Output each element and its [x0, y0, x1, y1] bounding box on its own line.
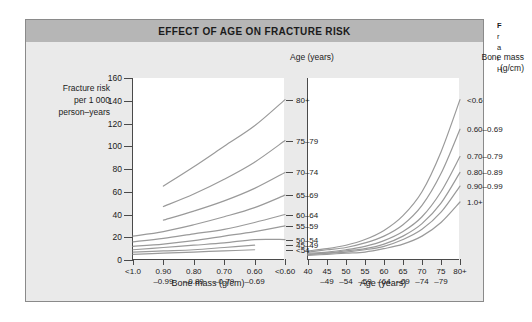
left-x-tick-label: <1.0	[125, 267, 141, 277]
y-axis-tick	[124, 237, 133, 238]
plot-area: Fracture risk per 1 000 person–years 160…	[26, 42, 483, 303]
right-x-tick-label: 40	[304, 267, 313, 277]
figure-title-band: EFFECT OF AGE ON FRACTURE RISK	[26, 20, 483, 42]
right-panel-axis-title: Age (years)	[360, 278, 407, 288]
right-x-tick-label-bottom: –74	[415, 277, 428, 287]
left-panel-axis-title: Bone mass (g/cm)	[171, 278, 244, 288]
y-axis-tick-label: 60	[113, 187, 122, 197]
left-x-tick-label: 0.90–0.99	[153, 267, 173, 287]
y-axis-tick	[124, 260, 133, 261]
right-x-tick-label-top: 60	[377, 267, 390, 277]
right-x-tick-label: 70–74	[415, 267, 428, 287]
y-axis-tick-label: 20	[113, 232, 122, 242]
left-curve	[133, 215, 285, 242]
left-panel-curves	[133, 78, 285, 260]
right-curve	[308, 100, 460, 251]
right-x-tick	[346, 259, 347, 265]
left-panel-plot: 160140120100806040200 <1.00.90–0.990.80–…	[132, 78, 284, 260]
right-x-tick	[327, 259, 328, 265]
y-axis-label: Fracture risk per 1 000 person–years	[32, 82, 110, 118]
right-legend-item: 1.0+	[467, 197, 483, 206]
y-axis-tick	[124, 146, 133, 147]
right-legend-item: 0.70–0.79	[467, 152, 503, 161]
right-legend-item: 0.80–0.89	[467, 168, 503, 177]
right-x-tick-label-bottom: –49	[320, 277, 333, 287]
caption-line-3: a	[497, 42, 532, 53]
middle-legend-title: Age (years)	[290, 52, 334, 63]
y-axis-tick	[124, 192, 133, 193]
left-x-tick-label: 0.60–0.69	[245, 267, 265, 287]
middle-legend-tick	[286, 141, 293, 142]
middle-legend-tick	[286, 172, 293, 173]
right-x-tick-label-top: 70	[415, 267, 428, 277]
left-x-tick	[224, 259, 225, 265]
y-axis-label-line2: per 1 000	[32, 94, 110, 106]
y-axis-tick-label: 120	[108, 119, 122, 129]
middle-legend-tick	[286, 100, 293, 101]
right-x-tick	[460, 259, 461, 265]
left-curve	[163, 141, 285, 207]
right-x-tick-label: 75–79	[434, 267, 447, 287]
right-x-tick-label: 45–49	[320, 267, 333, 287]
right-x-tick-label: 80+	[453, 267, 467, 277]
y-axis-label-line3: person–years	[32, 106, 110, 118]
middle-legend-item: 75–79	[296, 136, 318, 145]
left-curve	[133, 226, 285, 246]
right-legend-item: 0.90–0.99	[467, 182, 503, 191]
y-axis-tick-label: 80	[113, 164, 122, 174]
figure-title: EFFECT OF AGE ON FRACTURE RISK	[158, 26, 350, 37]
right-x-tick-label-top: 45	[320, 267, 333, 277]
middle-legend-item: 55–59	[296, 221, 318, 230]
left-x-tick	[133, 259, 134, 265]
right-x-tick-label-top: 80+	[453, 267, 467, 277]
y-axis-tick	[124, 215, 133, 216]
y-axis-tick-label: 40	[113, 210, 122, 220]
right-x-tick	[422, 259, 423, 265]
right-x-tick	[403, 259, 404, 265]
left-x-tick-label-top: <0.60	[275, 267, 295, 277]
left-x-tick-label-top: 0.70	[214, 267, 234, 277]
right-panel-curves	[308, 78, 460, 260]
right-x-tick-label-top: 40	[304, 267, 313, 277]
figure-page: EFFECT OF AGE ON FRACTURE RISK Fracture …	[0, 0, 532, 322]
caption-line-2: r	[497, 31, 532, 42]
left-x-tick-label-bottom: –0.69	[245, 277, 265, 287]
y-axis-tick-label: 0	[117, 255, 122, 265]
right-curve	[308, 129, 460, 252]
caption-line-4: i	[497, 53, 532, 64]
right-curve	[308, 172, 460, 254]
side-caption: F r a i H	[497, 20, 532, 80]
left-curve	[163, 100, 285, 186]
y-axis-label-line1: Fracture risk	[32, 82, 110, 94]
right-panel-plot: 4045–4950–5455–5960–6465–6970–7475–7980+	[307, 78, 459, 260]
right-x-tick-label-top: 75	[434, 267, 447, 277]
caption-line-1: F	[497, 20, 532, 31]
left-x-tick-label-bottom: –0.99	[153, 277, 173, 287]
right-curve	[308, 202, 460, 255]
y-axis-tick-label: 100	[108, 141, 122, 151]
right-x-tick	[365, 259, 366, 265]
y-axis-tick-label: 140	[108, 96, 122, 106]
right-curve	[308, 156, 460, 253]
right-x-tick-label-top: 55	[358, 267, 371, 277]
y-axis-tick	[124, 78, 133, 79]
figure-container: EFFECT OF AGE ON FRACTURE RISK Fracture …	[25, 19, 484, 302]
left-x-tick	[255, 259, 256, 265]
y-axis-tick	[124, 124, 133, 125]
y-axis-tick	[124, 101, 133, 102]
left-x-tick	[194, 259, 195, 265]
middle-legend-tick	[286, 226, 293, 227]
left-x-tick-label-top: 0.90	[153, 267, 173, 277]
right-x-tick-label-bottom: –79	[434, 277, 447, 287]
middle-legend-item: 70–74	[296, 168, 318, 177]
right-x-tick-label-top: 50	[339, 267, 352, 277]
caption-line-5: H	[497, 64, 532, 75]
middle-legend-tick	[286, 215, 293, 216]
right-x-tick	[308, 259, 309, 265]
right-x-tick-label-bottom: –54	[339, 277, 352, 287]
left-x-tick	[163, 259, 164, 265]
left-x-tick	[285, 259, 286, 265]
left-x-tick-label-top: 0.60	[245, 267, 265, 277]
middle-legend-item: 60–64	[296, 210, 318, 219]
right-x-tick	[441, 259, 442, 265]
